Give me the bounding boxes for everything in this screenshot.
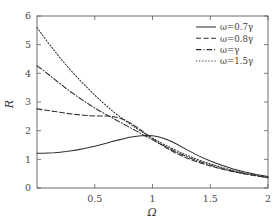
x-tick-label: 1 (149, 193, 155, 204)
chart-figure: 0.511.52 0123456 Ω R ω=0.7γω=0.8γω=γω=1.… (0, 0, 278, 223)
y-axis-tick-labels: 0123456 (25, 10, 31, 193)
chart-legend: ω=0.7γω=0.8γω=γω=1.5γ (196, 22, 253, 66)
legend-label-3: ω=1.5γ (220, 56, 253, 66)
curve-series-1 (37, 109, 268, 178)
legend-label-2: ω=γ (220, 45, 239, 55)
x-axis-title: Ω (146, 206, 156, 219)
y-tick-label: 6 (25, 10, 31, 21)
x-tick-label: 1.5 (203, 193, 218, 204)
y-axis-title: R (3, 100, 16, 109)
y-tick-label: 1 (25, 154, 31, 165)
x-axis-tick-labels: 0.511.52 (87, 193, 271, 204)
x-tick-label: 2 (265, 193, 271, 204)
legend-label-1: ω=0.8γ (220, 34, 253, 44)
y-tick-label: 2 (25, 125, 31, 136)
y-tick-label: 3 (25, 96, 31, 107)
x-tick-label: 0.5 (87, 193, 102, 204)
y-tick-label: 0 (25, 182, 31, 193)
curve-series-2 (37, 66, 268, 178)
y-tick-label: 5 (25, 39, 31, 50)
legend-label-0: ω=0.7γ (220, 22, 253, 32)
chart-plot-area: 0.511.52 0123456 Ω R ω=0.7γω=0.8γω=γω=1.… (0, 0, 278, 223)
y-tick-label: 4 (25, 68, 31, 79)
